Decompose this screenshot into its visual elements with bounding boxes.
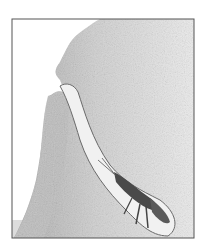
sand-burrow-illustration xyxy=(0,0,197,251)
